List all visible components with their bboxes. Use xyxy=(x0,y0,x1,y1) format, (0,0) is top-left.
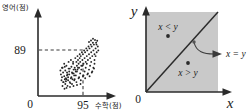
scatter-point-cloud xyxy=(59,38,99,90)
scatter-x-axis-label: 수학(점) xyxy=(95,101,122,110)
lower-region-label: x > y xyxy=(177,68,198,78)
scatter-x-reference-label: 95 xyxy=(77,99,89,111)
figure-container: 영어(점) 수학(점) 89 95 0 y x 0 x < y xyxy=(0,0,252,112)
scatter-y-axis-label: 영어(점) xyxy=(2,3,29,12)
scatter-plot-panel: 영어(점) 수학(점) 89 95 0 xyxy=(0,0,126,112)
plane-origin-label: 0 xyxy=(135,93,141,105)
scatter-origin-label: 0 xyxy=(27,98,33,110)
coordinate-plane-panel: y x 0 x < y x > y x = y xyxy=(126,0,252,112)
scatter-y-axis xyxy=(34,8,42,96)
plane-y-axis-label: y xyxy=(129,3,138,19)
scatter-y-reference-label: 89 xyxy=(14,44,26,56)
upper-region-dot xyxy=(166,34,170,38)
diagonal-callout-anchor xyxy=(192,40,195,43)
diagonal-line-label: x = y xyxy=(225,49,246,59)
lower-region-dot xyxy=(186,61,190,65)
plane-x-axis-label: x xyxy=(226,95,234,111)
upper-region-label: x < y xyxy=(157,22,178,32)
